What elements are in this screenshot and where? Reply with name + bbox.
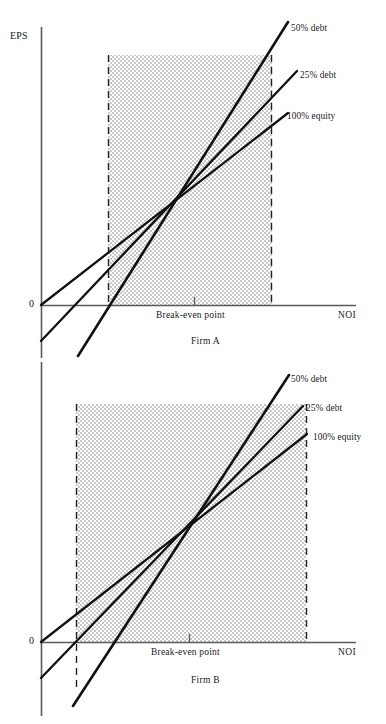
chart-a-break-even-label: Break-even point [156,311,225,321]
chart-b-series-label-equity100: 100% equity [313,433,361,442]
figure-canvas [0,0,386,724]
chart-b-series-label-debt25: 25% debt [306,404,342,413]
chart-b-caption: Firm B [191,676,220,686]
chart-a-caption: Firm A [191,337,220,347]
chart-a-series-label-equity100: 100% equity [287,112,335,121]
eps-noi-figure: EPS 50% debt 25% debt 100% equity 0 NOI … [0,0,386,724]
chart-a-series-label-debt25: 25% debt [300,71,336,80]
chart-a-y-axis-label: EPS [10,31,28,41]
chart-b-x-axis-label: NOI [338,648,356,658]
chart-b-group [41,362,356,716]
chart-b-series-label-debt50: 50% debt [291,375,327,384]
chart-b-break-even-label: Break-even point [151,648,220,658]
chart-a-x-axis-label: NOI [338,311,356,321]
chart-a-zero-label: 0 [29,299,34,309]
chart-b-zero-label: 0 [29,636,34,646]
chart-a-series-label-debt50: 50% debt [291,24,327,33]
